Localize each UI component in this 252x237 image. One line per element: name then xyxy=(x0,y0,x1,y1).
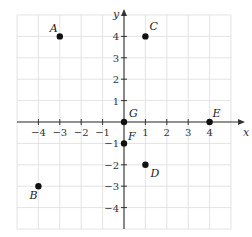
point-marker xyxy=(121,119,127,125)
x-tick-label: −1 xyxy=(95,127,110,138)
x-tick-label: 1 xyxy=(142,127,148,138)
x-tick-label: −4 xyxy=(31,127,46,138)
point-label: B xyxy=(28,189,37,202)
point-label: F xyxy=(127,130,136,143)
y-axis-arrow-icon xyxy=(121,9,127,16)
x-tick-label: 3 xyxy=(185,127,191,138)
y-tick-label: −4 xyxy=(104,203,119,214)
point-label: E xyxy=(212,107,221,120)
x-tick-label: −2 xyxy=(74,127,89,138)
x-tick-label: −3 xyxy=(52,127,67,138)
y-tick-label: 3 xyxy=(113,53,119,64)
y-tick-label: −2 xyxy=(104,160,119,171)
y-tick-label: 2 xyxy=(113,74,119,85)
x-tick-label: 4 xyxy=(206,127,212,138)
x-axis-arrow-icon xyxy=(238,119,245,125)
y-tick-label: 1 xyxy=(113,96,119,107)
coordinate-plane: −4−3−2−112344321−1−2−3−4 ABCDEFG x y xyxy=(0,0,252,237)
x-tick-label: 2 xyxy=(164,127,170,138)
point-marker xyxy=(142,33,148,39)
point-label: C xyxy=(149,20,158,33)
point-label: D xyxy=(149,167,159,180)
point-marker xyxy=(121,140,127,146)
y-tick-label: −1 xyxy=(104,138,119,149)
y-tick-label: −3 xyxy=(104,181,119,192)
point-marker xyxy=(142,162,148,168)
point-f: F xyxy=(121,130,136,146)
x-axis-label: x xyxy=(243,126,250,139)
point-label: A xyxy=(49,22,58,35)
point-a: A xyxy=(49,22,63,39)
point-d: D xyxy=(142,162,159,180)
y-axis-label: y xyxy=(112,8,120,21)
point-label: G xyxy=(129,107,138,120)
y-tick-label: 4 xyxy=(113,31,119,42)
